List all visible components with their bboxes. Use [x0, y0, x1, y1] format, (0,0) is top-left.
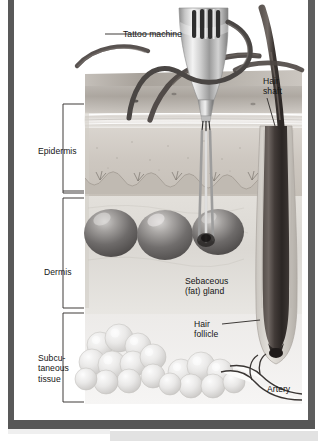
sebaceous-gland-lobes	[84, 209, 244, 260]
figure-root: Tattoo needle and skin	[0, 0, 318, 441]
callout-label-tattoo-machine: Tattoo machine	[123, 29, 182, 39]
frame-right-bar	[308, 0, 315, 429]
frame-bottom-bar	[8, 420, 315, 429]
callout-label-hair-follicle: Hair follicle	[194, 319, 218, 340]
callout-label-hair-shaft: Hair shaft	[263, 76, 282, 97]
bracket-dermis	[63, 198, 84, 308]
callout-label-artery: Artery	[267, 384, 290, 394]
skin-cross-section-illustration: Epidermis Dermis Subcu- taneous tissue T…	[22, 8, 302, 412]
layer-label-dermis: Dermis	[44, 267, 72, 277]
callout-label-sebaceous-gland: Sebaceous (fat) gland	[185, 276, 228, 297]
bottom-band-light	[8, 429, 110, 434]
bottom-band-grey	[110, 431, 318, 441]
layer-label-subcutaneous: Subcu- taneous tissue	[38, 353, 69, 384]
layer-label-epidermis: Epidermis	[38, 146, 77, 156]
